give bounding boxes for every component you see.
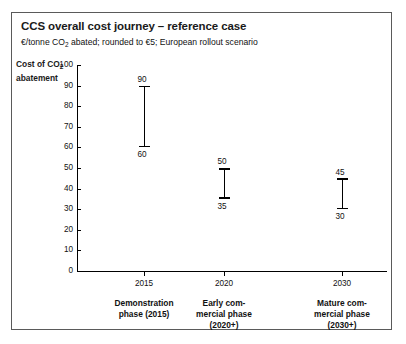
x-axis-tick	[144, 272, 145, 276]
x-axis-category-line: phase (2015)	[119, 309, 170, 319]
range-cap-low-icon	[139, 146, 150, 148]
x-axis-category-label: Early com- mercial phase (2020+)	[176, 298, 272, 331]
x-axis-tick	[224, 272, 225, 276]
y-axis-tick-label: 0	[45, 267, 73, 275]
range-stem	[144, 86, 146, 148]
chart-figure-frame: CCS overall cost journey – reference cas…	[11, 12, 392, 330]
y-axis-tick-label: 40	[45, 185, 73, 193]
x-axis-category-line: mercial phase	[314, 309, 370, 319]
y-axis-tick-label: 60	[45, 143, 73, 151]
y-axis-tick-label: 20	[45, 226, 73, 234]
y-axis-tick	[77, 209, 81, 210]
range-marker-2020[interactable]	[219, 168, 230, 199]
y-axis-tick	[77, 250, 81, 251]
y-axis-tick	[77, 106, 81, 107]
y-axis-tick	[77, 230, 81, 231]
x-axis-category-line: mercial phase	[196, 309, 252, 319]
x-axis-line	[77, 271, 387, 272]
range-value-low: 35	[202, 202, 242, 211]
range-stem	[342, 178, 344, 209]
range-marker-2030[interactable]	[337, 178, 348, 209]
y-axis-tick	[77, 147, 81, 148]
x-axis-tick-label: 2030	[302, 279, 382, 288]
x-axis-category-line: Mature com-	[317, 298, 367, 308]
x-axis-category-line: (2020+)	[209, 320, 238, 330]
range-marker-2015[interactable]	[139, 86, 150, 148]
y-axis-tick-label: 100	[45, 61, 73, 69]
x-axis-category-label: Mature com- mercial phase (2030+)	[294, 298, 390, 331]
range-cap-low-icon	[219, 197, 230, 199]
y-axis-tick	[77, 168, 81, 169]
x-axis-tick-label: 2020	[184, 279, 264, 288]
y-axis-tick-label: 80	[45, 102, 73, 110]
range-value-high: 45	[320, 168, 360, 177]
y-axis-tick-label: 50	[45, 164, 73, 172]
x-axis-tick	[342, 272, 343, 276]
range-cap-low-icon	[337, 208, 348, 210]
x-axis-category-line: (2030+)	[327, 320, 356, 330]
range-value-high: 50	[202, 157, 242, 166]
y-axis-tick	[77, 271, 81, 272]
x-axis-category-line: Demonstration	[114, 298, 173, 308]
range-value-high: 90	[122, 75, 162, 84]
x-axis-tick-label: 2015	[104, 279, 184, 288]
y-axis-tick-label: 30	[45, 205, 73, 213]
y-axis-tick	[77, 86, 81, 87]
range-stem	[224, 168, 226, 199]
y-axis-tick	[77, 189, 81, 190]
y-axis-tick-label: 90	[45, 82, 73, 90]
range-value-low: 30	[320, 212, 360, 221]
range-value-low: 60	[122, 150, 162, 159]
x-axis-category-line: Early com-	[203, 298, 246, 308]
y-axis-tick	[77, 127, 81, 128]
y-axis-tick-label: 10	[45, 246, 73, 254]
plot-area: 100 90 80 70 60 50 40 30 20 10 0 2015 20…	[12, 13, 393, 331]
y-axis-tick-label: 70	[45, 123, 73, 131]
y-axis-tick	[77, 65, 81, 66]
